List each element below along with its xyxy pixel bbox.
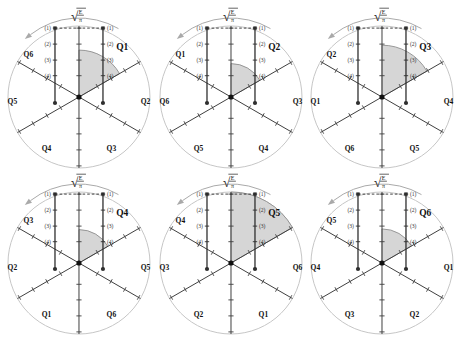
diagram-q1: (1)(2)(3)(4)(1)(2)(3)(4)√EπQ1Q6Q5Q2Q4Q3: [0, 0, 152, 172]
formula-numerator: E: [79, 174, 83, 180]
level-label-4-left: (4): [348, 73, 355, 80]
level-label-2-left: (2): [44, 207, 51, 214]
sector-quantization-figure: (1)(2)(3)(4)(1)(2)(3)(4)√EπQ1Q6Q5Q2Q4Q3(…: [0, 0, 455, 343]
diagram-q2: (1)(2)(3)(4)(1)(2)(3)(4)√EπQ2Q1Q6Q3Q5Q4: [152, 0, 304, 172]
left-bar-bottom-dot: [205, 101, 209, 105]
center-dot: [228, 94, 233, 99]
level-label-3-left: (3): [348, 57, 355, 64]
level-label-4-right: (4): [107, 238, 114, 245]
level-label-3-right: (3): [107, 223, 114, 230]
level-label-2-right: (2): [410, 207, 417, 214]
level-label-2-left: (2): [348, 41, 355, 48]
right-bar-bottom-dot: [253, 101, 257, 105]
rotation-arrow-head: [25, 33, 32, 39]
formula-numerator: E: [382, 174, 386, 180]
sector-label-q6: Q6: [292, 263, 302, 272]
level-label-1-right: (1): [259, 25, 266, 32]
level-label-1-left: (1): [44, 25, 51, 32]
formula-numerator: E: [230, 174, 234, 180]
level-label-4-left: (4): [196, 238, 203, 245]
sector-label-q3: Q3: [159, 263, 169, 272]
level-label-2-left: (2): [196, 41, 203, 48]
diagram-cell-q1: (1)(2)(3)(4)(1)(2)(3)(4)√EπQ1Q6Q5Q2Q4Q3: [0, 0, 152, 172]
sector-label-q2: Q2: [141, 97, 151, 106]
formula-denominator: π: [382, 17, 385, 23]
level-label-3-left: (3): [196, 223, 203, 230]
sector-label-q6: Q6: [420, 207, 432, 217]
rotation-arrow-head: [328, 198, 335, 204]
sector-label-q5: Q5: [193, 144, 203, 153]
diagram-q3: (1)(2)(3)(4)(1)(2)(3)(4)√EπQ3Q2Q1Q4Q6Q5: [303, 0, 455, 172]
sector-label-q1: Q1: [175, 50, 185, 59]
right-bar-bottom-dot: [101, 101, 105, 105]
sector-label-q2: Q2: [268, 42, 280, 52]
sector-label-q1: Q1: [258, 310, 268, 319]
left-bar-bottom-dot: [205, 266, 209, 270]
sector-label-q5: Q5: [141, 263, 151, 272]
level-label-2-right: (2): [259, 41, 266, 48]
center-dot: [76, 260, 81, 265]
sector-label-q5: Q5: [410, 144, 420, 153]
formula-denominator: π: [382, 182, 385, 188]
level-label-4-left: (4): [348, 238, 355, 245]
right-bar-bottom-dot: [101, 266, 105, 270]
right-bar-bottom-dot: [253, 266, 257, 270]
formula-numerator: E: [230, 9, 234, 15]
sector-label-q6: Q6: [24, 50, 34, 59]
level-label-3-right: (3): [259, 223, 266, 230]
diagram-cell-q2: (1)(2)(3)(4)(1)(2)(3)(4)√EπQ2Q1Q6Q3Q5Q4: [152, 0, 304, 172]
sector-label-q1: Q1: [444, 263, 454, 272]
diagram-q6: (1)(2)(3)(4)(1)(2)(3)(4)√EπQ6Q5Q4Q1Q3Q2: [303, 172, 455, 343]
sector-label-q4: Q4: [258, 144, 268, 153]
right-bar-bottom-dot: [404, 266, 408, 270]
sector-label-q6: Q6: [159, 97, 169, 106]
center-dot: [76, 94, 81, 99]
level-label-3-left: (3): [44, 223, 51, 230]
right-bar-bottom-dot: [404, 101, 408, 105]
sector-label-q3: Q3: [345, 310, 355, 319]
sector-label-q2: Q2: [410, 310, 420, 319]
rotation-arrow-head: [25, 198, 32, 204]
level-label-4-right: (4): [410, 73, 417, 80]
sector-label-q2: Q2: [327, 50, 337, 59]
level-label-4-left: (4): [44, 73, 51, 80]
rotation-arrow-head: [328, 33, 335, 39]
diagram-q4: (1)(2)(3)(4)(1)(2)(3)(4)√EπQ4Q3Q2Q5Q1Q6: [0, 172, 152, 343]
level-label-3-right: (3): [410, 223, 417, 230]
left-bar-bottom-dot: [356, 266, 360, 270]
level-label-2-right: (2): [410, 41, 417, 48]
diagram-cell-q3: (1)(2)(3)(4)(1)(2)(3)(4)√EπQ3Q2Q1Q4Q6Q5: [303, 0, 455, 172]
level-label-1-right: (1): [410, 191, 417, 198]
level-label-3-right: (3): [107, 57, 114, 64]
sector-label-q3: Q3: [292, 97, 302, 106]
formula-numerator: E: [79, 9, 83, 15]
sector-label-q1: Q1: [42, 310, 52, 319]
formula-denominator: π: [231, 182, 234, 188]
left-bar-bottom-dot: [356, 101, 360, 105]
formula-denominator: π: [231, 17, 234, 23]
diagram-cell-q4: (1)(2)(3)(4)(1)(2)(3)(4)√EπQ4Q3Q2Q5Q1Q6: [0, 172, 152, 343]
diagram-cell-q5: (1)(2)(3)(4)(1)(2)(3)(4)√EπQ5Q4Q3Q6Q2Q1: [152, 172, 304, 343]
sector-label-q6: Q6: [107, 310, 117, 319]
sector-label-q5: Q5: [268, 207, 280, 217]
level-label-1-left: (1): [348, 25, 355, 32]
formula-denominator: π: [79, 182, 82, 188]
center-dot: [228, 260, 233, 265]
left-bar-bottom-dot: [53, 101, 57, 105]
level-label-3-right: (3): [259, 57, 266, 64]
level-label-2-right: (2): [259, 207, 266, 214]
sector-label-q1: Q1: [116, 42, 128, 52]
sector-label-q3: Q3: [107, 144, 117, 153]
sector-label-q4: Q4: [42, 144, 52, 153]
rotation-arrow-head: [176, 198, 183, 204]
diagram-q5: (1)(2)(3)(4)(1)(2)(3)(4)√EπQ5Q4Q3Q6Q2Q1: [152, 172, 304, 343]
sector-label-q4: Q4: [116, 207, 128, 217]
diagram-cell-q6: (1)(2)(3)(4)(1)(2)(3)(4)√EπQ6Q5Q4Q1Q3Q2: [303, 172, 455, 343]
sector-label-q5: Q5: [327, 216, 337, 225]
level-label-2-left: (2): [348, 207, 355, 214]
rotation-arrow-head: [176, 33, 183, 39]
sector-label-q5: Q5: [8, 97, 18, 106]
sector-label-q3: Q3: [420, 42, 432, 52]
level-label-1-right: (1): [410, 25, 417, 32]
sector-label-q2: Q2: [193, 310, 203, 319]
